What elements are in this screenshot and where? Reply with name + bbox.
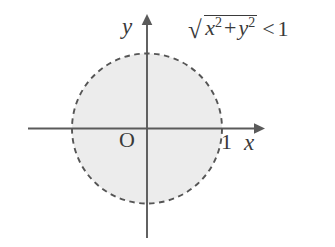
plus-operator: + — [222, 15, 238, 40]
square-root-expression: √ x2+y2 — [186, 16, 257, 42]
y-axis-arrowhead-icon — [142, 14, 153, 25]
right-hand-side-value: 1 — [278, 16, 289, 41]
x-axis-tick-label-1: 1 — [221, 131, 232, 153]
x-axis-label: x — [244, 131, 254, 154]
inequality-annotation: √ x2+y2 <1 — [186, 16, 289, 42]
radicand: x2+y2 — [204, 15, 257, 39]
x-axis-arrowhead-icon — [254, 123, 265, 134]
radical-sign-icon: √ — [188, 17, 202, 42]
less-than-operator: < — [257, 16, 277, 41]
exponent-y: 2 — [248, 15, 255, 30]
figure-container: y x O 1 √ x2+y2 <1 — [0, 0, 335, 247]
origin-label: O — [119, 129, 135, 151]
variable-y: y — [238, 15, 248, 40]
variable-x: x — [205, 15, 215, 40]
exponent-x: 2 — [215, 15, 222, 30]
y-axis-label: y — [122, 15, 132, 38]
